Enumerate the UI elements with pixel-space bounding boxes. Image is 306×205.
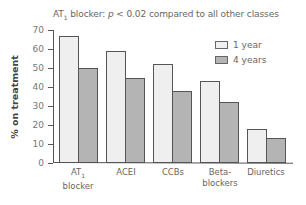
y-tick [48, 87, 53, 88]
bar-diuretics-1-year [247, 129, 267, 164]
y-tick-label: 60 [22, 44, 44, 54]
legend-item-1-year: 1 year [233, 40, 262, 50]
legend-swatch-4-years [215, 56, 228, 64]
y-tick-label: 40 [22, 81, 44, 91]
legend-label: 4 years [233, 55, 266, 65]
category-label-beta-blockers: Beta-blockers [195, 167, 245, 189]
y-tick [48, 49, 53, 50]
bar-beta-blockers-1-year [200, 81, 220, 163]
y-tick-label: 10 [22, 138, 44, 148]
category-label-at1-blocker: AT1blocker [53, 167, 103, 192]
y-tick [48, 125, 53, 126]
y-tick [48, 106, 53, 107]
legend-swatch-1-year [215, 41, 228, 49]
y-axis [53, 30, 54, 163]
y-axis-label: % on treatment [9, 55, 20, 139]
y-tick-label: 0 [22, 157, 44, 167]
chart-title: AT1 blocker: p < 0.02 compared to all ot… [53, 9, 279, 21]
y-tick [48, 68, 53, 69]
y-tick [48, 144, 53, 145]
bar-diuretics-4-years [266, 138, 286, 164]
bar-ccbs-1-year [153, 64, 173, 163]
category-label-diuretics: Diuretics [241, 167, 291, 178]
bar-beta-blockers-4-years [219, 102, 239, 163]
bar-at1-blocker-1-year [59, 36, 79, 164]
bar-ccbs-4-years [172, 91, 192, 164]
bar-acei-1-year [106, 51, 126, 163]
legend-label: 1 year [233, 40, 262, 50]
y-tick [48, 163, 53, 164]
bar-at1-blocker-4-years [78, 68, 98, 163]
category-label-ccbs: CCBs [148, 167, 198, 178]
y-tick-label: 30 [22, 100, 44, 110]
y-tick [48, 30, 53, 31]
y-tick-label: 20 [22, 119, 44, 129]
bar-acei-4-years [125, 78, 145, 164]
y-tick-label: 50 [22, 63, 44, 73]
legend-item-4-years: 4 years [233, 55, 266, 65]
y-tick-label: 70 [22, 25, 44, 35]
category-label-acei: ACEI [101, 167, 151, 178]
